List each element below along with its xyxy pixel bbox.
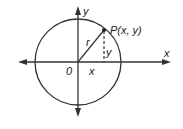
horizontal-x-label: x <box>88 65 95 77</box>
x-axis-label: x <box>163 47 170 59</box>
x-axis-left-arrow-icon <box>18 59 27 65</box>
x-axis <box>18 59 171 65</box>
y-axis-label: y <box>82 5 90 17</box>
x-axis-right-arrow-icon <box>162 59 171 65</box>
radius-segment <box>78 30 104 62</box>
point-p-dot <box>102 28 106 32</box>
origin-label: 0 <box>66 65 73 77</box>
y-axis-bottom-arrow-icon <box>75 108 81 117</box>
y-axis-top-arrow-icon <box>75 6 81 15</box>
point-p-label: P(x, y) <box>110 24 142 36</box>
vertical-y-label: y <box>105 46 113 58</box>
diagram-canvas: y x 0 P(x, y) r x y <box>0 0 183 129</box>
unit-circle-diagram: y x 0 P(x, y) r x y <box>0 0 183 129</box>
